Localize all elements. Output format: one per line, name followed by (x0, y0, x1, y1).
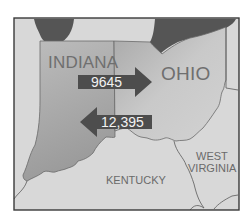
state-label-indiana: INDIANA (48, 54, 118, 71)
map-graphic (0, 0, 251, 224)
state-label-ohio: OHIO (161, 64, 210, 83)
map-container: INDIANA OHIO KENTUCKY WEST VIRGINIA 9645… (0, 0, 251, 224)
state-label-west-virginia-line2: VIRGINIA (188, 163, 236, 174)
flow-value-ohio-to-indiana: 12,395 (101, 115, 144, 129)
flow-value-indiana-to-ohio: 9645 (91, 75, 122, 89)
state-label-west-virginia-line1: WEST (196, 151, 228, 162)
state-label-kentucky: KENTUCKY (106, 175, 166, 186)
